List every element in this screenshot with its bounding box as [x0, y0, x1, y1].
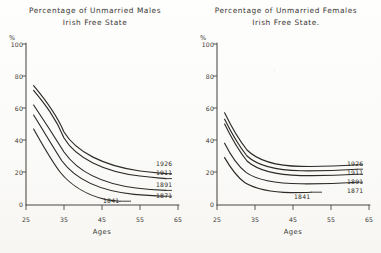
curve-1871-males: [34, 115, 166, 196]
x-axis-ticks-females: [217, 205, 369, 210]
series-label-1891-males: 1891: [156, 181, 172, 188]
series-label-1891-females: 1891: [347, 178, 363, 185]
series-label-1926-females: 1926: [347, 160, 363, 167]
series-label-1911-females: 1911: [347, 169, 363, 176]
curve-1871-females: [225, 143, 357, 184]
series-label-1911-males: 1911: [156, 169, 172, 176]
chart-panel-females: Percentage of Unmarried Females Irish Fr…: [191, 0, 381, 253]
series-label-1871-females: 1871: [347, 187, 363, 194]
chart-svg-males: [0, 0, 190, 253]
curve-1891-females: [225, 124, 357, 176]
x-axis-ticks-males: [26, 205, 178, 210]
series-label-1926-males: 1926: [156, 160, 172, 167]
series-label-1841-females: 1841: [294, 193, 310, 200]
curve-1926-males: [34, 86, 166, 174]
curve-1911-females: [225, 119, 357, 171]
chart-svg-females: [191, 0, 381, 253]
y-axis-ticks-females: [213, 44, 217, 172]
chart-panel-males: Percentage of Unmarried Males Irish Free…: [0, 0, 190, 253]
series-label-1871-males: 1871: [156, 192, 172, 199]
scanned-figure-page: Percentage of Unmarried Males Irish Free…: [0, 0, 381, 253]
y-axis-ticks-males: [22, 44, 26, 172]
series-label-1841-males: 1841: [103, 197, 119, 204]
